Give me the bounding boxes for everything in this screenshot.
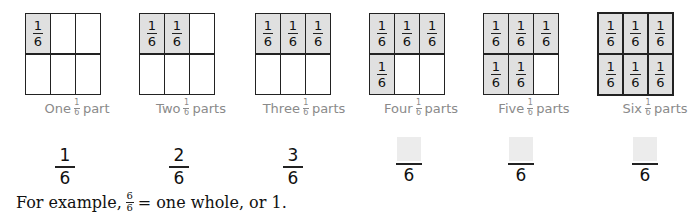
answer-fraction: 16	[55, 147, 75, 187]
cell-fraction-denominator: 6	[655, 35, 665, 48]
sentence-fraction: 6 6	[126, 191, 134, 213]
cell-fraction-denominator: 6	[172, 35, 182, 48]
cell-fraction-denominator: 6	[630, 35, 640, 48]
shaded-cell: 16	[649, 55, 672, 94]
shaded-cell: 16	[256, 14, 280, 53]
cell-fraction-numerator: 1	[630, 19, 640, 32]
cell-fraction-denominator: 6	[377, 76, 387, 89]
cell-fraction-denominator: 6	[288, 35, 298, 48]
cell-fraction-numerator: 1	[516, 19, 526, 32]
label-fraction-numerator: 1	[646, 99, 651, 107]
empty-cell	[51, 14, 75, 53]
label-fraction-denominator: 6	[528, 109, 533, 117]
empty-cell	[534, 55, 558, 94]
answer-numerator: 1	[60, 147, 71, 164]
cell-fraction-denominator: 6	[263, 35, 273, 48]
label-count-word: Three	[263, 101, 300, 116]
shaded-cell: 16	[599, 14, 622, 53]
cell-fraction-denominator: 6	[147, 35, 157, 48]
cell-fraction: 16	[263, 19, 273, 48]
cell-fraction-numerator: 1	[541, 19, 551, 32]
cell-fraction-numerator: 1	[33, 19, 43, 32]
sentence-lead: For example,	[16, 193, 122, 212]
panel-one-sixth: 16 One 1 6 part 16	[14, 0, 124, 190]
shaded-cell: 16	[281, 14, 305, 53]
shaded-cell: 16	[26, 14, 50, 53]
label-fraction-numerator: 1	[303, 99, 308, 107]
answer-denominator: 6	[174, 170, 185, 187]
cell-fraction-denominator: 6	[491, 35, 501, 48]
cell-fraction-denominator: 6	[541, 35, 551, 48]
label-fraction-denominator: 6	[416, 109, 421, 117]
cell-fraction: 16	[491, 19, 501, 48]
cell-fraction-numerator: 1	[491, 60, 501, 73]
answer-denominator: 6	[640, 167, 651, 184]
cell-fraction-denominator: 6	[427, 35, 437, 48]
label-unit-word: parts	[536, 101, 569, 116]
panel-label: Three 1 6 parts	[249, 99, 359, 117]
shaded-cell: 16	[306, 14, 330, 53]
answer-numerator-blank[interactable]	[633, 137, 657, 161]
answer-denominator: 6	[288, 170, 299, 187]
empty-cell	[256, 55, 280, 94]
label-fraction-numerator: 1	[528, 99, 533, 107]
cell-fraction-numerator: 1	[630, 60, 640, 73]
label-fraction: 1 6	[183, 99, 189, 117]
shaded-cell: 16	[534, 14, 558, 53]
cell-fraction: 16	[377, 60, 387, 89]
empty-cell	[190, 14, 214, 53]
cell-fraction: 16	[630, 60, 640, 89]
answer-fraction: 26	[169, 147, 189, 187]
empty-cell	[281, 55, 305, 94]
label-fraction-denominator: 6	[646, 109, 651, 117]
cell-fraction: 16	[655, 60, 665, 89]
label-fraction-numerator: 1	[74, 99, 79, 107]
cell-fraction-denominator: 6	[630, 76, 640, 89]
fraction-grid: 161616	[255, 13, 331, 95]
empty-cell	[76, 14, 100, 53]
empty-cell	[51, 55, 75, 94]
answer-numerator-blank[interactable]	[397, 137, 421, 161]
answer-fraction-slot: 16	[10, 137, 120, 187]
answer-fraction: 6	[632, 137, 658, 184]
panel-label: Five 1 6 parts	[479, 99, 589, 117]
cell-fraction: 16	[491, 60, 501, 89]
answer-fraction-slot: 6	[590, 137, 695, 184]
label-fraction: 1 6	[416, 99, 422, 117]
answer-fraction-slot: 36	[238, 137, 348, 187]
panel-label: One 1 6 part	[22, 99, 132, 117]
label-fraction-denominator: 6	[184, 109, 189, 117]
answer-fraction-slot: 26	[124, 137, 234, 187]
label-fraction: 1 6	[74, 99, 80, 117]
shaded-cell: 16	[484, 55, 508, 94]
cell-fraction-numerator: 1	[606, 19, 616, 32]
label-count-word: Four	[384, 101, 413, 116]
shaded-cell: 16	[509, 55, 533, 94]
label-fraction: 1 6	[303, 99, 309, 117]
cell-fraction: 16	[377, 19, 387, 48]
answer-numerator: 2	[174, 147, 185, 164]
sentence-tail: = one whole, or 1.	[138, 193, 287, 212]
label-unit-word: parts	[312, 101, 345, 116]
label-fraction-numerator: 1	[184, 99, 189, 107]
label-fraction-denominator: 6	[74, 109, 79, 117]
fraction-grid: 16	[25, 13, 101, 95]
label-count-word: Five	[498, 101, 524, 116]
answer-fraction-slot: 6	[354, 137, 464, 184]
cell-fraction-numerator: 1	[491, 19, 501, 32]
answer-numerator-blank[interactable]	[509, 137, 533, 161]
panel-four-sixths: 16161616 Four 1 6 parts 6	[358, 0, 468, 190]
empty-cell	[26, 55, 50, 94]
shaded-cell: 16	[649, 14, 672, 53]
label-count-word: Two	[156, 101, 180, 116]
answer-fraction: 6	[396, 137, 422, 184]
shaded-cell: 16	[484, 14, 508, 53]
empty-cell	[76, 55, 100, 94]
shaded-cell: 16	[624, 55, 647, 94]
empty-cell	[190, 55, 214, 94]
cell-fraction: 16	[172, 19, 182, 48]
cell-fraction-numerator: 1	[655, 19, 665, 32]
label-fraction-denominator: 6	[303, 109, 308, 117]
shaded-cell: 16	[509, 14, 533, 53]
panel-two-sixths: 1616 Two 1 6 parts 26	[128, 0, 238, 190]
